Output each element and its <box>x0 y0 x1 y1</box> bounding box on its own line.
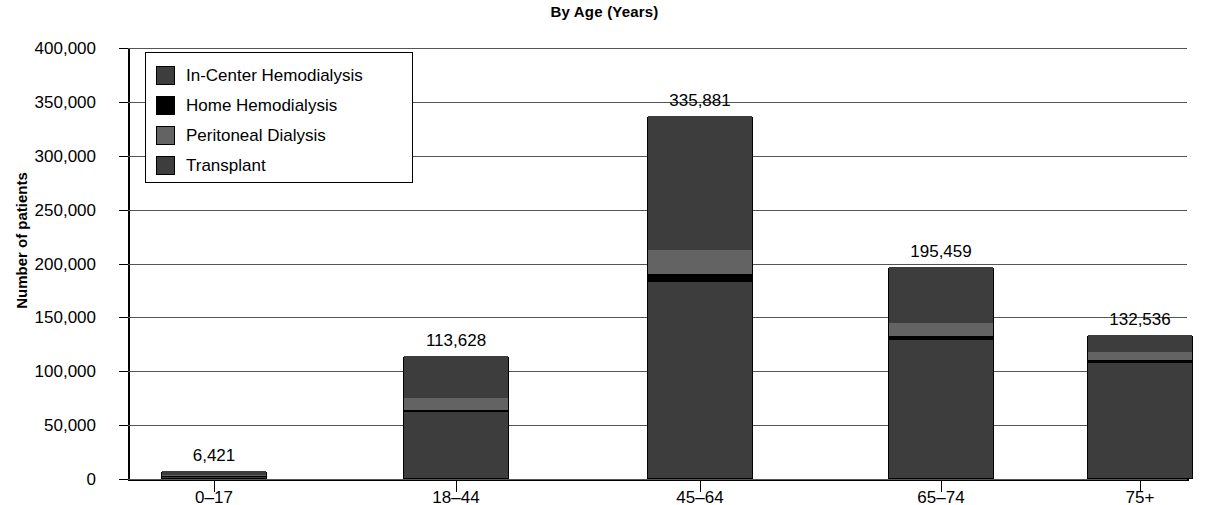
y-axis-tick <box>119 425 128 426</box>
x-axis-label-18-44: 18–44 <box>376 488 536 505</box>
legend-label: In-Center Hemodialysis <box>186 67 363 84</box>
bar-value-label: 6,421 <box>114 446 314 466</box>
bar-segment-home-hemodialysis <box>889 336 993 340</box>
bar-65-74[interactable] <box>888 268 994 479</box>
bar-segment-transplant <box>889 267 993 322</box>
legend: In-Center HemodialysisHome HemodialysisP… <box>145 52 413 183</box>
legend-item[interactable]: In-Center Hemodialysis <box>156 60 412 90</box>
bar-75+[interactable] <box>1087 336 1193 479</box>
bar-segment-in-center-hemodialysis <box>1088 363 1192 478</box>
x-axis-label-65-74: 65–74 <box>861 488 1021 505</box>
bar-segment-peritoneal-dialysis <box>889 323 993 336</box>
legend-label: Peritoneal Dialysis <box>186 127 326 144</box>
x-axis-label-0-17: 0–17 <box>134 488 294 505</box>
bar-value-label: 195,459 <box>841 242 1041 262</box>
bar-segment-transplant <box>648 116 752 249</box>
bar-segment-in-center-hemodialysis <box>162 476 266 478</box>
y-axis-tick-label: 0 <box>0 471 96 488</box>
y-axis-tick-label: 350,000 <box>0 94 96 111</box>
bar-chart: By Age (Years) Number of patients 050,00… <box>0 0 1209 505</box>
bar-segment-transplant <box>162 471 266 475</box>
x-axis-label-75+: 75+ <box>1060 488 1209 505</box>
bar-segment-home-hemodialysis <box>648 274 752 282</box>
y-axis-tick <box>119 317 128 318</box>
bar-18-44[interactable] <box>403 357 509 479</box>
y-axis-tick-label: 50,000 <box>0 417 96 434</box>
y-axis-tick <box>119 264 128 265</box>
legend-swatch-icon <box>156 96 175 115</box>
y-axis-tick-label: 400,000 <box>0 40 96 57</box>
bar-value-label: 335,881 <box>600 91 800 111</box>
bar-segment-home-hemodialysis <box>1088 360 1192 363</box>
bar-value-label: 113,628 <box>356 331 556 351</box>
legend-item[interactable]: Home Hemodialysis <box>156 90 412 120</box>
legend-swatch-icon <box>156 66 175 85</box>
bar-segment-in-center-hemodialysis <box>889 340 993 478</box>
bar-0-17[interactable] <box>161 472 267 479</box>
y-axis-tick-label: 250,000 <box>0 202 96 219</box>
y-axis-tick <box>119 156 128 157</box>
bar-segment-home-hemodialysis <box>404 410 508 413</box>
legend-item[interactable]: Transplant <box>156 150 412 180</box>
y-axis-tick-label: 150,000 <box>0 309 96 326</box>
legend-item[interactable]: Peritoneal Dialysis <box>156 120 412 150</box>
bar-45-64[interactable] <box>647 117 753 479</box>
y-axis-tick <box>119 371 128 372</box>
legend-label: Home Hemodialysis <box>186 97 337 114</box>
bar-segment-peritoneal-dialysis <box>404 398 508 410</box>
y-axis-tick <box>119 102 128 103</box>
legend-label: Transplant <box>186 157 266 174</box>
bar-segment-peritoneal-dialysis <box>162 475 266 476</box>
bar-segment-transplant <box>1088 335 1192 352</box>
chart-title: By Age (Years) <box>0 3 1209 20</box>
y-axis-tick-label: 300,000 <box>0 148 96 165</box>
y-axis-tick <box>119 48 128 49</box>
y-axis-tick <box>119 479 128 480</box>
bar-segment-transplant <box>404 356 508 398</box>
bar-value-label: 132,536 <box>1040 310 1209 330</box>
gridline <box>128 479 1187 480</box>
y-axis-tick-label: 100,000 <box>0 363 96 380</box>
bar-segment-peritoneal-dialysis <box>648 250 752 275</box>
gridline <box>128 48 1187 49</box>
bar-segment-peritoneal-dialysis <box>1088 352 1192 360</box>
x-axis-label-45-64: 45–64 <box>620 488 780 505</box>
y-axis-tick-label: 200,000 <box>0 256 96 273</box>
y-axis-tick <box>119 210 128 211</box>
bar-segment-in-center-hemodialysis <box>404 412 508 478</box>
legend-swatch-icon <box>156 156 175 175</box>
legend-swatch-icon <box>156 126 175 145</box>
bar-segment-in-center-hemodialysis <box>648 282 752 478</box>
